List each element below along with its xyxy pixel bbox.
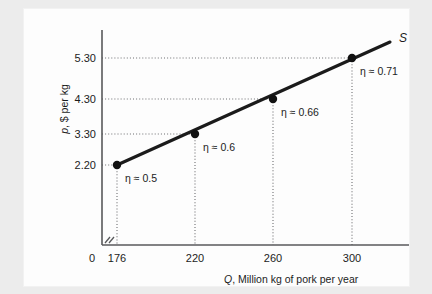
svg-text:p, $ per kg: p, $ per kg [58,84,70,135]
figure-card: S 2.20 3.30 4.30 5.30 0 176 220 260 300 … [24,9,409,286]
x-axis-title: Q, Million kg of pork per year [224,273,359,285]
origin-label: 0 [89,252,95,264]
data-point [113,161,121,169]
y-axis-title: p, $ per kg [58,84,70,135]
y-tick-label: 4.30 [75,93,96,105]
elasticity-annotation: η ≈ 0.71 [360,65,398,77]
x-axis-title-rest: , Million kg of pork per year [232,273,359,285]
elasticity-annotation: η ≈ 0.5 [125,172,157,184]
data-point [269,95,277,103]
chart-svg: S 2.20 3.30 4.30 5.30 0 176 220 260 300 … [24,9,409,286]
x-tick-label: 260 [264,252,282,264]
elasticity-annotation: η ≈ 0.66 [281,106,319,118]
y-axis-title-rest: , $ per kg [58,84,70,128]
y-tick-label: 2.20 [75,159,96,171]
supply-curve-chart: S 2.20 3.30 4.30 5.30 0 176 220 260 300 … [24,9,409,286]
elasticity-annotation: η ≈ 0.6 [203,141,235,153]
data-point [348,54,356,62]
axis-break-icon [105,237,114,243]
x-axis-title-variable: Q [224,273,232,285]
x-tick-label: 176 [108,252,126,264]
x-tick-label: 220 [186,252,204,264]
y-tick-label: 5.30 [75,52,96,64]
data-point [191,130,199,138]
y-tick-label: 3.30 [75,128,96,140]
x-tick-label: 300 [343,252,361,264]
svg-text:Q, Million kg of pork per year: Q, Million kg of pork per year [224,273,359,285]
curve-label-s: S [399,31,407,45]
